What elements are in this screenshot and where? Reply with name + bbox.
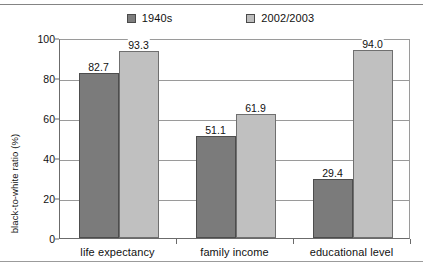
bar-series-container: 82.793.351.161.929.494.0: [60, 40, 409, 238]
x-axis-tick-mark: [410, 239, 411, 244]
bar-group: 82.793.3: [60, 40, 177, 238]
bar-value-label: 82.7: [87, 61, 109, 73]
page-rule-top: [0, 4, 423, 5]
bar-value-label: 51.1: [204, 124, 226, 136]
legend-item-series-2: 2002/2003: [246, 13, 314, 24]
plot-area: 82.793.351.161.929.494.0: [59, 39, 410, 239]
x-axis-tick-mark: [176, 239, 177, 244]
legend-swatch-icon-1940s: [127, 14, 136, 23]
bar-group: 29.494.0: [294, 40, 411, 238]
bar-series-1940s[interactable]: 29.4: [313, 179, 353, 238]
bar-series-1940s[interactable]: 82.7: [79, 73, 119, 238]
x-axis-tick-mark: [293, 239, 294, 244]
x-axis-category-label: family income: [200, 246, 269, 258]
bar-group: 51.161.9: [177, 40, 294, 238]
bar-series-2002-2003[interactable]: 93.3: [119, 51, 159, 238]
y-axis-tick-label: 100: [37, 33, 55, 45]
legend-swatch-icon-2002-2003: [246, 14, 255, 23]
legend-label-1940s: 1940s: [142, 13, 172, 24]
y-axis-tick-label: 40: [43, 153, 55, 165]
y-axis-tick-label: 60: [43, 113, 55, 125]
y-axis: black-to-white ratio (%) 020406080100: [0, 39, 59, 239]
bar-series-2002-2003[interactable]: 94.0: [353, 50, 393, 238]
x-axis-category-label: life expectancy: [80, 246, 154, 258]
chart-legend: 1940s 2002/2003: [0, 11, 423, 25]
y-axis-tick-label: 80: [43, 73, 55, 85]
legend-item-series-1: 1940s: [127, 13, 172, 24]
legend-label-2002-2003: 2002/2003: [261, 13, 314, 24]
page-rule-bottom: [0, 261, 423, 262]
bar-series-1940s[interactable]: 51.1: [196, 136, 236, 238]
bar-value-label: 61.9: [244, 102, 266, 114]
y-axis-tick-label: 20: [43, 193, 55, 205]
x-axis-category-label: educational level: [310, 246, 394, 258]
bar-series-2002-2003[interactable]: 61.9: [236, 114, 276, 238]
bar-value-label: 93.3: [127, 39, 149, 51]
x-axis-labels: life expectancyfamily incomeeducational …: [59, 246, 410, 262]
bar-value-label: 29.4: [321, 167, 343, 179]
bar-value-label: 94.0: [361, 38, 383, 50]
y-axis-title: black-to-white ratio (%): [9, 94, 20, 272]
chart-page: 1940s 2002/2003 black-to-white ratio (%)…: [0, 0, 423, 272]
